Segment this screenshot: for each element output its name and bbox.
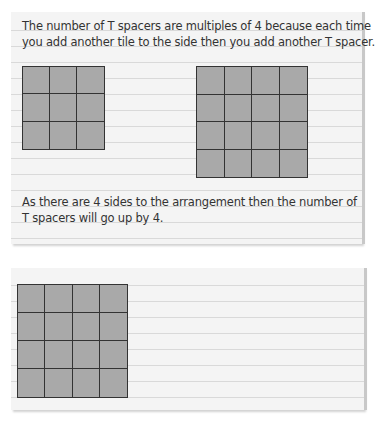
note-text-line-3: As there are 4 sides to the arrangement … [22,194,357,210]
tile-grid-4x4-cross-spacers [17,284,128,398]
note-text-line-1: The number of T spacers are multiples of… [22,18,371,34]
tile-grid-3x3 [22,66,105,150]
tile-grid-4x4 [196,66,308,178]
note-text-line-4: T spacers will go up by 4. [22,210,163,226]
note-text-line-2: you add another tile to the side then yo… [22,34,375,50]
